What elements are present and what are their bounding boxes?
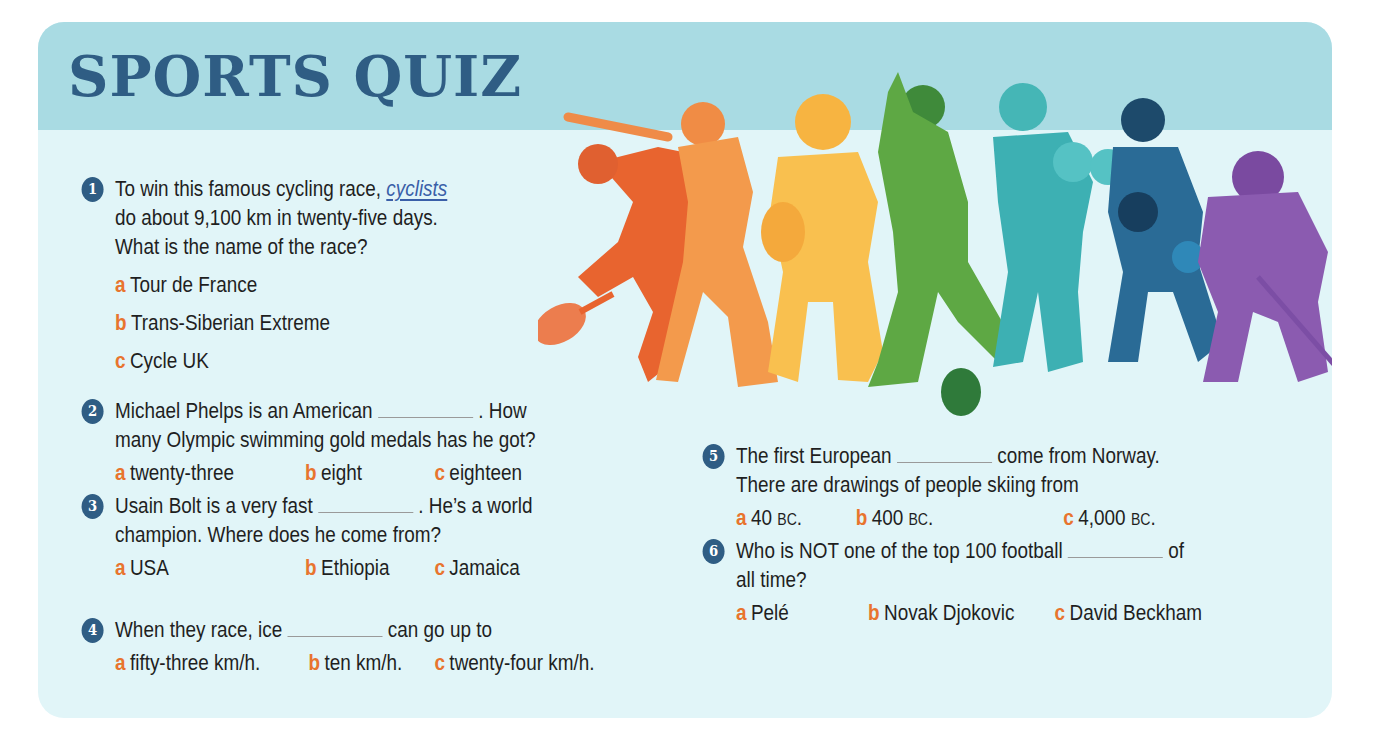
- option-b[interactable]: bEthiopia: [305, 554, 389, 583]
- question-3: 3 Usain Bolt is a very fast. He’s a worl…: [115, 492, 533, 583]
- option-a[interactable]: aUSA: [115, 554, 169, 583]
- option-c[interactable]: ceighteen: [434, 459, 522, 488]
- page-title: SPORTS QUIZ: [68, 48, 522, 104]
- question-5: 5 The first Europeancome from Norway. Th…: [736, 442, 1160, 533]
- american-football-player-icon: [761, 94, 883, 382]
- option-a[interactable]: a40 BC.: [736, 504, 802, 534]
- boxer-icon: [993, 83, 1126, 372]
- question-number-badge: 5: [703, 444, 725, 469]
- option-c[interactable]: cCycle UK: [115, 347, 447, 376]
- option-b[interactable]: beight: [305, 459, 362, 488]
- option-a[interactable]: atwenty-three: [115, 459, 234, 488]
- option-a[interactable]: afifty-three km/h.: [115, 649, 260, 678]
- question-4: 4 When they race, icecan go up to afifty…: [115, 616, 492, 678]
- answer-blank[interactable]: [378, 399, 473, 418]
- question-number-badge: 2: [82, 399, 104, 424]
- question-text: do about 9,100 km in twenty-five days.: [115, 204, 447, 233]
- question-number-badge: 6: [703, 539, 725, 564]
- option-b[interactable]: bTrans-Siberian Extreme: [115, 309, 447, 338]
- question-2: 2 Michael Phelps is an American. How man…: [115, 397, 536, 488]
- quiz-card: SPORTS QUIZ: [38, 22, 1332, 718]
- sports-silhouettes-illustration: [538, 62, 1332, 422]
- question-1: 1 To win this famous cycling race, cycli…: [115, 175, 447, 376]
- question-6: 6 Who is NOT one of the top 100 football…: [736, 537, 1184, 628]
- answer-blank[interactable]: [287, 618, 382, 637]
- option-b[interactable]: b400 BC.: [856, 504, 934, 534]
- answer-blank[interactable]: [897, 444, 992, 463]
- option-c[interactable]: cDavid Beckham: [1055, 599, 1202, 628]
- option-a[interactable]: aTour de France: [115, 271, 447, 300]
- answer-blank[interactable]: [318, 494, 413, 513]
- option-c[interactable]: c4,000 BC.: [1063, 504, 1155, 534]
- footballer-icon: [868, 72, 1008, 416]
- option-a[interactable]: aPelé: [736, 599, 789, 628]
- question-text: To win this famous cycling race,: [115, 177, 386, 201]
- option-b[interactable]: bNovak Djokovic: [868, 599, 1014, 628]
- gap-word-link[interactable]: cyclists: [386, 177, 447, 201]
- question-number-badge: 1: [82, 177, 104, 202]
- option-b[interactable]: bten km/h.: [309, 649, 403, 678]
- option-c[interactable]: ctwenty-four km/h.: [434, 649, 594, 678]
- answer-blank[interactable]: [1068, 539, 1163, 558]
- question-number-badge: 3: [82, 494, 104, 519]
- question-text: What is the name of the race?: [115, 233, 447, 262]
- question-number-badge: 4: [82, 618, 104, 643]
- option-c[interactable]: cJamaica: [434, 554, 519, 583]
- ice-hockey-player-icon: [1198, 151, 1332, 392]
